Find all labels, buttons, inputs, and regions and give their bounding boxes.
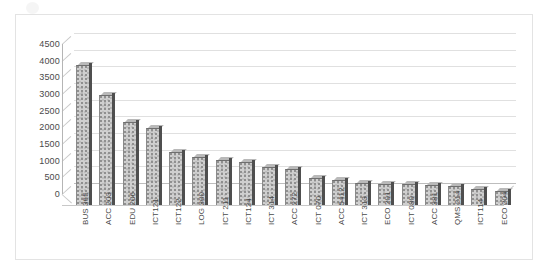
x-axis-tick-label: ICT122: [169, 211, 190, 219]
x-axis-tick-label: QMS 214: [448, 211, 469, 219]
y-axis-tick: [62, 169, 72, 178]
scan-artifact: [26, 2, 39, 14]
y-axis-tick-label: 0: [18, 190, 60, 199]
x-axis-tick-label: ICT 313: [355, 211, 376, 219]
y-axis-tick-label: 3000: [18, 90, 60, 99]
x-axis-tick-label: ICT121: [146, 211, 167, 219]
y-axis-tick-label: 4000: [18, 57, 60, 66]
y-axis-tick-labels: 450040003500300025002000150010005000: [16, 15, 60, 261]
x-axis-tick-label: ICT 070: [309, 211, 330, 219]
y-axis-tick-label: 4500: [18, 40, 60, 49]
x-axis-tick-label: ACC 381: [425, 211, 446, 219]
y-axis-tick: [62, 153, 72, 162]
x-axis-tick-label: LOG 300: [192, 211, 213, 219]
chart-container: 450040003500300025002000150010005000 BUS…: [15, 14, 533, 260]
x-axis-tick-label: BUS 365: [76, 211, 97, 219]
y-axis-line: [62, 44, 63, 194]
y-axis-tick: [62, 119, 72, 128]
y-axis-tick: [62, 86, 72, 95]
floor-left-edge: [62, 194, 72, 203]
y-axis-tick-label: 1000: [18, 157, 60, 166]
y-axis-tick: [62, 69, 72, 78]
y-axis-tick-label: 3500: [18, 73, 60, 82]
y-axis-tick: [62, 103, 72, 112]
y-axis-tick: [62, 53, 72, 62]
x-axis-tick-label: ICT 211: [216, 211, 237, 219]
x-axis-tick-label: ICT 314: [262, 211, 283, 219]
y-axis-tick: [62, 136, 72, 145]
y-axis-tick-label: 2000: [18, 123, 60, 132]
x-axis-tick-label: ACC 203: [99, 211, 120, 219]
x-axis-tick-label: ICT124: [239, 211, 260, 219]
x-axis-tick-label: ACC 272: [285, 211, 306, 219]
x-axis-tick-labels: BUS 365ACC 203EDU 206ICT121ICT122LOG 300…: [74, 15, 516, 261]
plot-area: 450040003500300025002000150010005000 BUS…: [16, 15, 534, 261]
y-axis-tick-label: 2500: [18, 107, 60, 116]
x-axis-tick-label: ACC 5412: [332, 211, 353, 219]
x-axis-tick-label: ECO 204: [495, 211, 516, 219]
y-axis-tick-label: 1500: [18, 140, 60, 149]
y-axis-tick-label: 500: [18, 173, 60, 182]
x-axis-tick-label: ICT 080: [402, 211, 423, 219]
y-axis-tick: [62, 36, 72, 45]
x-axis-tick-label: ICT114: [471, 211, 492, 219]
x-axis-tick-label: ECO 201: [378, 211, 399, 219]
x-axis-tick-label: EDU 206: [123, 211, 144, 219]
